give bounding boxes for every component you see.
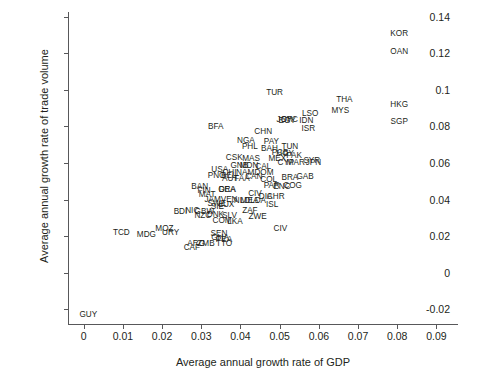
- x-tick-label: 0.01: [113, 330, 133, 342]
- x-tick-mark: [397, 325, 398, 329]
- y-tick-mark: [64, 17, 68, 18]
- x-tick-mark: [280, 325, 281, 329]
- data-point-label: SGP: [391, 118, 408, 126]
- x-tick-label: 0.04: [230, 330, 250, 342]
- data-point-label: PHL: [242, 143, 258, 151]
- y-tick-label: 0: [444, 267, 450, 279]
- x-tick-mark: [162, 325, 163, 329]
- data-point-label: CAF: [184, 244, 200, 252]
- data-point-label: LDA: [250, 197, 266, 205]
- data-point-label: DEA: [219, 186, 236, 194]
- data-point-label: CIV: [274, 224, 288, 232]
- x-tick-mark: [436, 325, 437, 329]
- data-point-label: THA: [336, 96, 352, 104]
- x-tick-mark: [84, 325, 85, 329]
- data-point-label: OAN: [390, 48, 408, 56]
- y-tick-mark: [64, 273, 68, 274]
- y-tick-label: 0.12: [430, 47, 450, 59]
- y-tick-label: 0.14: [430, 11, 450, 23]
- data-point-label: TCD: [113, 229, 130, 237]
- data-point-label: FAA: [234, 175, 249, 183]
- y-axis-spine: [68, 12, 69, 325]
- y-tick-mark: [64, 53, 68, 54]
- x-tick-mark: [123, 325, 124, 329]
- data-point-label: CHN: [254, 128, 272, 136]
- data-point-label: MAR: [287, 159, 305, 167]
- data-point-label: ZWE: [249, 213, 267, 221]
- data-point-label: BFA: [208, 123, 223, 131]
- data-point-label: GAB: [296, 173, 313, 181]
- x-tick-label: 0.07: [348, 330, 368, 342]
- data-point-label: EGY: [278, 117, 295, 125]
- x-tick-mark: [319, 325, 320, 329]
- x-tick-mark: [240, 325, 241, 329]
- y-axis-title: Average annual growth rate of trade volu…: [38, 6, 50, 306]
- y-tick-mark: [64, 200, 68, 201]
- y-tick-label: 0.02: [430, 230, 450, 242]
- data-point-label: COG: [283, 182, 302, 190]
- y-tick-label: 0.04: [430, 194, 450, 206]
- x-axis-spine: [68, 324, 458, 325]
- x-tick-label: 0.02: [152, 330, 172, 342]
- x-tick-label: 0.06: [309, 330, 329, 342]
- x-axis-title: Average annual growth rate of GDP: [68, 356, 458, 368]
- scatter-chart-figure: -0.0200.020.040.060.080.10.120.14 00.010…: [0, 0, 479, 382]
- plot-area: -0.0200.020.040.060.080.10.120.14 00.010…: [68, 12, 458, 325]
- data-point-label: ISL: [266, 201, 278, 209]
- data-point-label: ISR: [301, 125, 315, 133]
- data-point-label: MYS: [332, 107, 350, 115]
- y-tick-mark: [64, 236, 68, 237]
- y-tick-label: -0.02: [426, 303, 450, 315]
- y-tick-label: 0.06: [430, 157, 450, 169]
- y-tick-mark: [64, 90, 68, 91]
- data-point-label: JPN: [306, 159, 321, 167]
- y-tick-label: 0.08: [430, 120, 450, 132]
- y-tick-label: 0.1: [435, 84, 450, 96]
- y-tick-mark: [64, 126, 68, 127]
- x-tick-mark: [358, 325, 359, 329]
- x-tick-label: 0.09: [426, 330, 446, 342]
- data-point-label: URY: [162, 229, 179, 237]
- data-point-label: TTO: [216, 240, 232, 248]
- data-point-label: GUY: [80, 311, 98, 319]
- data-point-label: HKG: [390, 101, 408, 109]
- y-tick-mark: [64, 309, 68, 310]
- data-point-label: KOR: [390, 30, 408, 38]
- data-point-label: LKA: [227, 218, 242, 226]
- x-tick-label: 0.05: [269, 330, 289, 342]
- y-tick-mark: [64, 163, 68, 164]
- x-tick-mark: [201, 325, 202, 329]
- data-point-label: TUR: [266, 88, 283, 96]
- x-tick-label: 0: [81, 330, 87, 342]
- data-point-label: MDG: [137, 231, 156, 239]
- x-tick-label: 0.03: [191, 330, 211, 342]
- x-tick-label: 0.08: [387, 330, 407, 342]
